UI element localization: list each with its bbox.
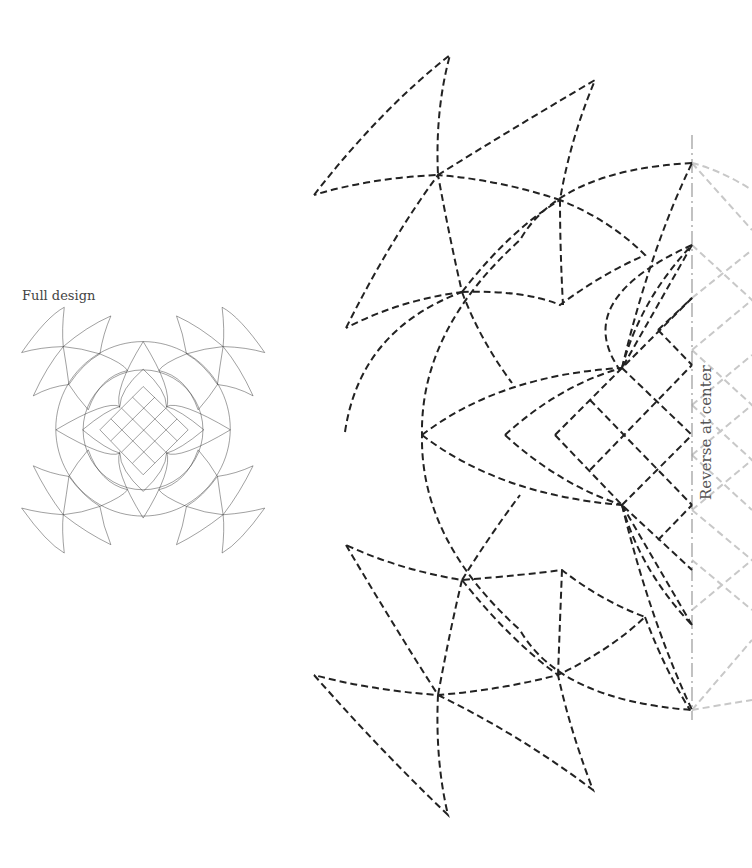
half-design-template (0, 0, 752, 868)
dashed-pattern-lines (314, 55, 692, 815)
reverse-at-center-label: Reverse at center (697, 365, 715, 500)
